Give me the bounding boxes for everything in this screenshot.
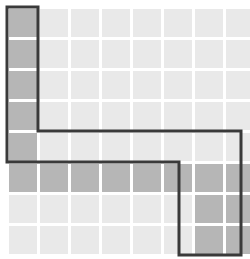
grid-cell[interactable] — [164, 133, 192, 161]
grid-cell[interactable] — [226, 71, 250, 99]
grid-cell[interactable] — [9, 226, 37, 254]
grid-cell[interactable] — [40, 133, 68, 161]
grid-cell[interactable] — [40, 195, 68, 223]
grid-cell[interactable] — [164, 195, 192, 223]
grid-cell[interactable] — [226, 102, 250, 130]
grid-cell[interactable] — [195, 102, 223, 130]
grid-cell-highlighted[interactable] — [164, 164, 192, 192]
grid-cell[interactable] — [164, 102, 192, 130]
grid-cell[interactable] — [9, 195, 37, 223]
grid-cell[interactable] — [71, 102, 99, 130]
grid-cell[interactable] — [102, 9, 130, 37]
grid-cell[interactable] — [40, 71, 68, 99]
grid-cell[interactable] — [226, 9, 250, 37]
grid-cell[interactable] — [102, 102, 130, 130]
grid-cell[interactable] — [133, 195, 161, 223]
diagram-canvas — [0, 0, 250, 259]
grid-cell[interactable] — [71, 226, 99, 254]
grid-cell-highlighted[interactable] — [226, 164, 250, 192]
grid-cell-highlighted[interactable] — [195, 226, 223, 254]
grid-cell[interactable] — [40, 40, 68, 68]
grid-cell[interactable] — [71, 40, 99, 68]
grid-cell[interactable] — [164, 226, 192, 254]
grid-cell[interactable] — [71, 195, 99, 223]
grid-cell[interactable] — [102, 195, 130, 223]
grid-cell-highlighted[interactable] — [133, 164, 161, 192]
grid-cell-highlighted[interactable] — [9, 133, 37, 161]
grid-cell-highlighted[interactable] — [9, 102, 37, 130]
grid-cell[interactable] — [133, 226, 161, 254]
grid-cell[interactable] — [133, 9, 161, 37]
grid-cell[interactable] — [71, 133, 99, 161]
grid-cell[interactable] — [226, 133, 250, 161]
grid-cell[interactable] — [40, 102, 68, 130]
grid-cell[interactable] — [133, 40, 161, 68]
grid-cell[interactable] — [71, 9, 99, 37]
grid-cell[interactable] — [195, 71, 223, 99]
grid-cell-highlighted[interactable] — [9, 9, 37, 37]
grid-cell[interactable] — [164, 40, 192, 68]
grid-cell-highlighted[interactable] — [40, 164, 68, 192]
grid-cell[interactable] — [164, 71, 192, 99]
grid-cell[interactable] — [71, 71, 99, 99]
grid-cell[interactable] — [195, 40, 223, 68]
grid-cell[interactable] — [133, 71, 161, 99]
grid-cell[interactable] — [226, 40, 250, 68]
grid-cell[interactable] — [195, 133, 223, 161]
grid-cell[interactable] — [164, 9, 192, 37]
grid-cell[interactable] — [40, 226, 68, 254]
grid-cell[interactable] — [133, 102, 161, 130]
grid-cell-highlighted[interactable] — [9, 71, 37, 99]
grid-cell-highlighted[interactable] — [195, 164, 223, 192]
grid-cell-highlighted[interactable] — [9, 164, 37, 192]
grid-cell[interactable] — [102, 133, 130, 161]
grid-cell-highlighted[interactable] — [195, 195, 223, 223]
grid-cell[interactable] — [102, 226, 130, 254]
grid-cell-highlighted[interactable] — [71, 164, 99, 192]
grid-layer — [0, 0, 250, 259]
grid-cell-highlighted[interactable] — [226, 195, 250, 223]
grid-cell-highlighted[interactable] — [9, 40, 37, 68]
grid-cell[interactable] — [195, 9, 223, 37]
grid-cell-highlighted[interactable] — [102, 164, 130, 192]
grid-cell[interactable] — [102, 40, 130, 68]
grid-cell[interactable] — [40, 9, 68, 37]
grid-cell[interactable] — [133, 133, 161, 161]
grid-cell-highlighted[interactable] — [226, 226, 250, 254]
grid-cell[interactable] — [102, 71, 130, 99]
